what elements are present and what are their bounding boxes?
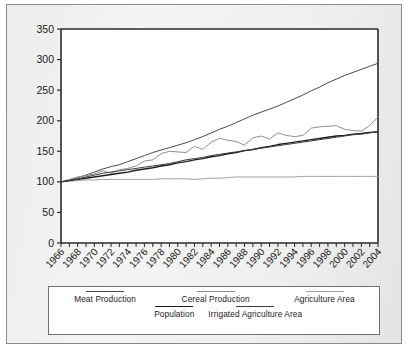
line-chart: 0501001502002503003501966196819701972197… xyxy=(6,4,402,294)
chart-canvas: 0501001502002503003501966196819701972197… xyxy=(6,4,402,294)
y-axis-tick-label: 50 xyxy=(42,206,54,218)
legend-swatch-agriculture-area xyxy=(306,291,344,292)
legend-label-meat-production: Meat Production xyxy=(74,294,136,304)
legend-label-agriculture-area: Agriculture Area xyxy=(294,294,355,304)
legend-item-cereal-production[interactable]: Cereal Production xyxy=(161,291,270,304)
legend-swatch-population xyxy=(155,306,193,307)
legend-item-meat-production[interactable]: Meat Production xyxy=(49,291,161,304)
legend-item-irrigated-agriculture-area[interactable]: Irrigated Agriculture Area xyxy=(208,306,302,319)
legend-swatch-irrigated-agriculture-area xyxy=(236,306,274,307)
y-axis-tick-label: 100 xyxy=(36,175,54,187)
legend-item-population[interactable]: Population xyxy=(154,306,194,319)
legend-item-agriculture-area[interactable]: Agriculture Area xyxy=(270,291,379,304)
legend-label-cereal-production: Cereal Production xyxy=(182,294,250,304)
y-axis-tick-label: 300 xyxy=(36,53,54,65)
y-axis-tick-label: 350 xyxy=(36,23,54,35)
y-axis-tick-label: 150 xyxy=(36,145,54,157)
legend-cell-population: Population xyxy=(49,306,198,319)
chart-legend: Meat Production Cereal Production Agricu… xyxy=(48,286,380,335)
legend-row-1: Meat Production Cereal Production Agricu… xyxy=(49,287,379,304)
y-axis-tick-label: 200 xyxy=(36,114,54,126)
legend-swatch-meat-production xyxy=(86,291,124,292)
legend-cell-irrigated-agriculture-area: Irrigated Agriculture Area xyxy=(198,306,379,319)
legend-label-population: Population xyxy=(154,309,194,319)
legend-label-irrigated-agriculture-area: Irrigated Agriculture Area xyxy=(208,309,302,319)
x-axis-tick-label: 2004 xyxy=(360,246,383,270)
y-axis-tick-label: 0 xyxy=(48,237,54,249)
y-axis-tick-label: 250 xyxy=(36,84,54,96)
legend-swatch-cereal-production xyxy=(197,291,235,292)
screenshot-root: 0501001502002503003501966196819701972197… xyxy=(0,0,415,357)
legend-row-2: Population Irrigated Agriculture Area xyxy=(49,304,379,319)
